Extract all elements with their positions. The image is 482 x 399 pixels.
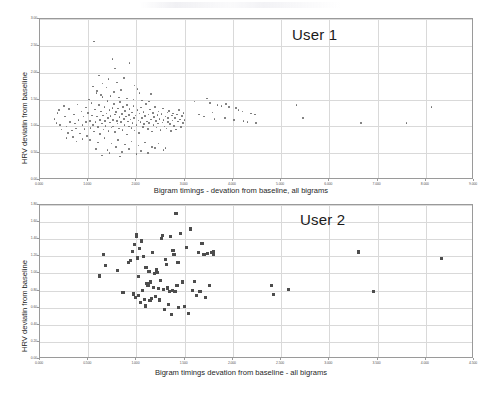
y-tick-mark	[37, 255, 39, 256]
data-point	[243, 120, 245, 122]
chart-user2-annotation: User 2	[300, 211, 345, 228]
chart-user2-x-tick: 3.500	[373, 361, 381, 365]
data-point	[81, 111, 83, 113]
data-point	[122, 106, 124, 108]
data-point	[197, 251, 200, 254]
data-point	[63, 105, 65, 107]
data-point	[224, 117, 226, 119]
gridline-horizontal	[40, 222, 472, 223]
data-point	[119, 101, 121, 103]
data-point	[153, 124, 155, 126]
data-point	[138, 145, 140, 147]
data-point	[131, 141, 133, 143]
chart-user2-x-tick: 2.000	[228, 361, 236, 365]
data-point	[167, 117, 169, 119]
data-point	[121, 151, 123, 153]
gridline-vertical	[378, 205, 379, 357]
x-tick-mark	[377, 358, 378, 360]
data-point	[144, 142, 146, 144]
data-point	[144, 115, 146, 117]
gridline-vertical	[281, 19, 282, 178]
data-point	[99, 133, 101, 135]
data-point	[163, 149, 165, 151]
data-point	[167, 303, 170, 306]
x-tick-mark	[135, 358, 136, 360]
data-point	[270, 284, 273, 287]
data-point	[115, 111, 117, 113]
y-tick-mark	[37, 45, 39, 46]
data-point	[126, 98, 128, 100]
data-point	[119, 156, 121, 158]
data-point	[147, 270, 150, 273]
data-point	[69, 121, 71, 123]
data-point	[152, 286, 155, 289]
x-tick-mark	[184, 179, 185, 181]
data-point	[172, 253, 175, 256]
chart-user2-y-tick: 1.20	[27, 253, 37, 257]
data-point	[113, 91, 115, 93]
data-point	[64, 116, 66, 118]
gridline-horizontal	[40, 342, 472, 343]
data-point	[98, 104, 100, 106]
chart-user1-y-tick: 2.00	[27, 70, 37, 74]
x-tick-mark	[87, 179, 88, 181]
data-point	[167, 121, 169, 123]
data-point	[173, 125, 175, 127]
data-point	[206, 98, 208, 100]
x-tick-mark	[135, 179, 136, 181]
gridline-horizontal	[40, 19, 472, 20]
data-point	[161, 234, 164, 237]
chart-user2-x-tick: 3.000	[324, 361, 332, 365]
data-point	[169, 123, 171, 125]
x-tick-mark	[328, 358, 329, 360]
data-point	[71, 130, 73, 132]
data-point	[104, 120, 106, 122]
chart-user2-y-tick: 0.00	[27, 356, 37, 360]
data-point	[159, 118, 161, 120]
data-point	[250, 113, 252, 115]
data-point	[128, 148, 130, 150]
data-point	[131, 250, 134, 253]
data-point	[133, 117, 135, 119]
data-point	[104, 264, 107, 267]
data-point	[154, 295, 157, 298]
data-point	[116, 269, 119, 272]
data-point	[171, 115, 173, 117]
data-point	[163, 119, 165, 121]
data-point	[67, 132, 69, 134]
data-point	[151, 251, 154, 254]
data-point	[132, 122, 134, 124]
data-point	[152, 112, 154, 114]
data-point	[58, 109, 60, 111]
x-tick-mark	[39, 358, 40, 360]
chart-user2-y-tick: 0.20	[27, 339, 37, 343]
data-point	[214, 118, 216, 120]
data-point	[113, 103, 115, 105]
data-point	[115, 146, 117, 148]
data-point	[162, 288, 165, 291]
data-point	[206, 252, 209, 255]
data-point	[141, 289, 144, 292]
chart-user2: HRV deviatin from baseline 0.000.200.400…	[0, 200, 482, 390]
data-point	[119, 116, 121, 118]
gridline-vertical	[185, 19, 186, 178]
data-point	[114, 114, 116, 116]
data-point	[149, 280, 152, 283]
data-point	[133, 243, 136, 246]
data-point	[372, 290, 375, 293]
data-point	[200, 242, 203, 245]
gridline-horizontal	[40, 256, 472, 257]
data-point	[96, 90, 98, 92]
chart-user2-y-tick: 1.60	[27, 219, 37, 223]
data-point	[272, 293, 275, 296]
y-tick-mark	[37, 221, 39, 222]
data-point	[150, 297, 153, 300]
figure-page: HRV deviatin from baseline 0.000.501.001…	[0, 0, 482, 399]
data-point	[91, 102, 93, 104]
data-point	[100, 111, 102, 113]
data-point	[228, 106, 230, 108]
data-point	[118, 128, 120, 130]
x-tick-mark	[377, 179, 378, 181]
data-point	[174, 117, 176, 119]
data-point	[170, 130, 172, 132]
